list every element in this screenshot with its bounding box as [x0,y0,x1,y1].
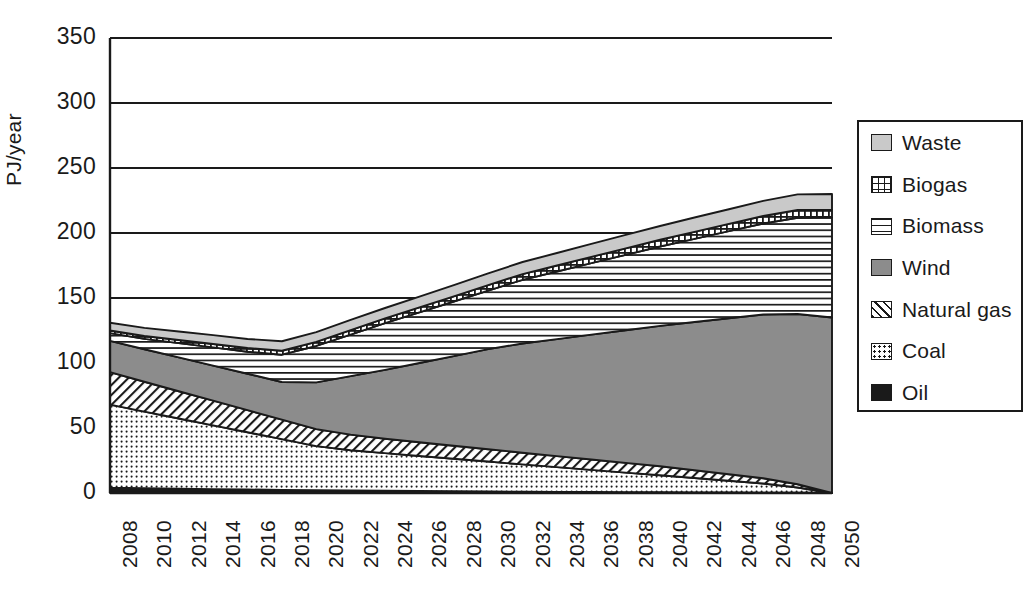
legend-swatch-icon [871,134,892,151]
legend-item-waste[interactable]: Waste [859,122,1021,164]
legend-swatch-icon [871,218,892,235]
legend-swatch-icon [871,176,892,193]
legend-item-label: Natural gas [902,298,1012,322]
legend-item-label: Waste [902,131,962,155]
legend-item-natural-gas[interactable]: Natural gas [859,289,1021,331]
legend-swatch-icon [871,301,892,318]
legend-item-label: Coal [902,339,946,363]
legend-item-oil[interactable]: Oil [859,372,1021,414]
legend-item-coal[interactable]: Coal [859,330,1021,372]
legend-swatch-icon [871,343,892,360]
chart-legend: WasteBiogasBiomassWindNatural gasCoalOil [857,120,1023,412]
legend-item-label: Biomass [902,214,984,238]
legend-item-label: Biogas [902,173,967,197]
legend-swatch-icon [871,384,892,401]
legend-item-label: Wind [902,256,951,280]
chart-root: PJ/year 050100150200250300350 2008201020… [0,0,1034,595]
legend-swatch-icon [871,259,892,276]
legend-item-biogas[interactable]: Biogas [859,164,1021,206]
legend-item-wind[interactable]: Wind [859,247,1021,289]
legend-item-biomass[interactable]: Biomass [859,205,1021,247]
legend-item-label: Oil [902,381,928,405]
area-series-group [110,194,832,493]
